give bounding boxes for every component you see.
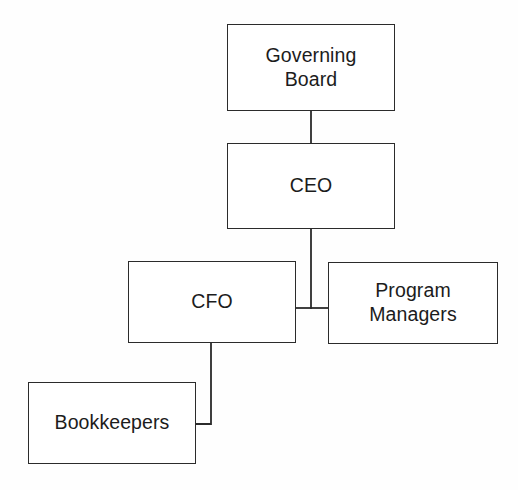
node-governing-board[interactable]: Governing Board bbox=[227, 24, 395, 111]
node-bookkeepers-label: Bookkeepers bbox=[51, 411, 174, 435]
node-cfo-label: CFO bbox=[187, 290, 236, 314]
org-chart-canvas: Governing Board CEO CFO Program Managers… bbox=[0, 0, 518, 490]
node-ceo[interactable]: CEO bbox=[227, 143, 395, 229]
edge-cfo-bookkeepers bbox=[196, 343, 211, 424]
node-bookkeepers[interactable]: Bookkeepers bbox=[28, 382, 196, 464]
node-governing-board-label: Governing Board bbox=[262, 44, 361, 92]
node-program-managers[interactable]: Program Managers bbox=[328, 262, 498, 344]
node-program-managers-label: Program Managers bbox=[365, 279, 461, 327]
node-ceo-label: CEO bbox=[286, 174, 337, 198]
node-cfo[interactable]: CFO bbox=[128, 261, 296, 343]
